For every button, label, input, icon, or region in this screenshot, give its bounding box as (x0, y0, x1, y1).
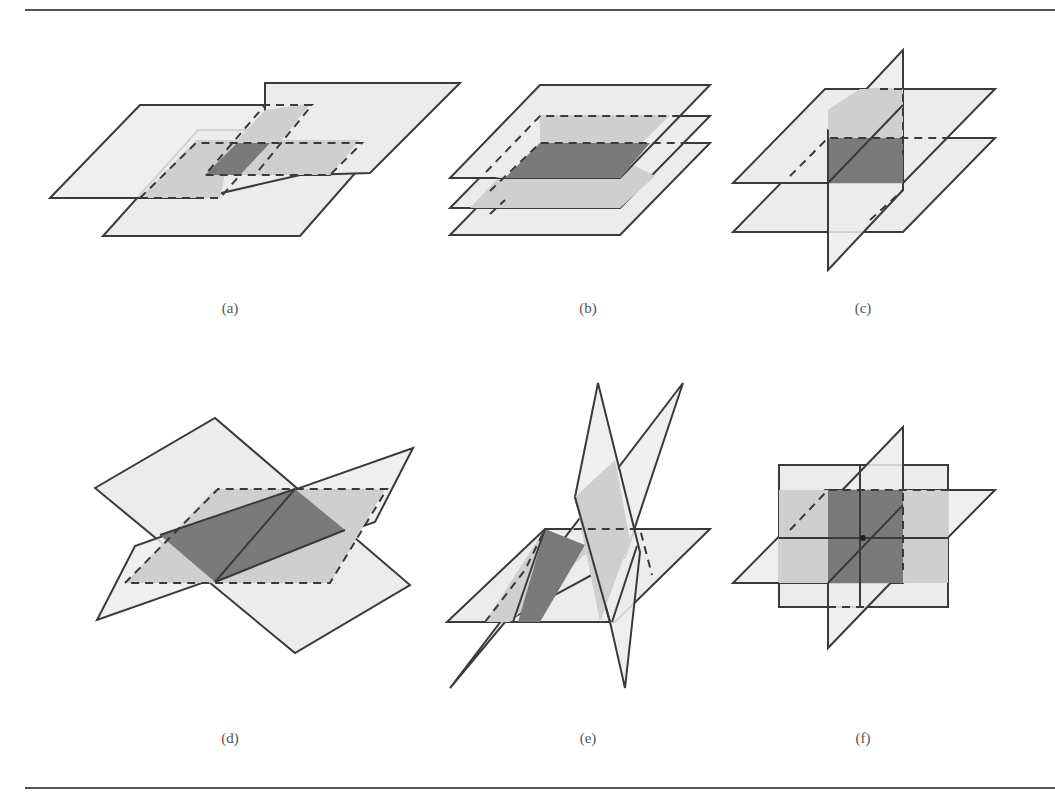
figure-canvas (0, 0, 1055, 799)
caption-e: (e) (558, 730, 618, 747)
panel-f-diagram (733, 427, 995, 648)
caption-a: (a) (200, 300, 260, 317)
caption-b: (b) (558, 300, 618, 317)
panel-c-diagram (733, 50, 995, 270)
panel-a-diagram (50, 83, 460, 236)
panel-d-diagram (95, 418, 413, 653)
panel-e-diagram (447, 383, 710, 688)
caption-f: (f) (833, 730, 893, 747)
panel-b-diagram (450, 85, 710, 235)
caption-c: (c) (833, 300, 893, 317)
caption-d: (d) (200, 730, 260, 747)
